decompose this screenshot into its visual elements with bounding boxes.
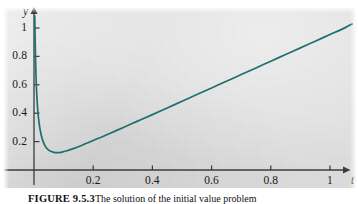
y-tick-label: 1 — [0, 22, 27, 34]
caption-label: FIGURE 9.5.3 — [28, 193, 95, 204]
figure-caption: FIGURE 9.5.3The solution of the initial … — [28, 193, 358, 204]
y-tick-label: 0.4 — [0, 107, 27, 119]
y-tick-label: 0.8 — [0, 50, 27, 62]
x-tick-label: 1 — [316, 175, 344, 187]
tick-marks-group — [34, 28, 330, 170]
y-tick-label: 0.2 — [0, 136, 27, 148]
caption-text: The solution of the initial value proble… — [95, 193, 257, 204]
x-tick-label: 0.6 — [198, 175, 226, 187]
x-axis-label: t — [351, 175, 354, 187]
x-tick-label: 0.2 — [79, 175, 107, 187]
y-tick-label: 0.6 — [0, 79, 27, 91]
axes-group — [3, 7, 351, 186]
solution-curve — [35, 16, 352, 153]
y-axis-label: y — [23, 6, 28, 18]
x-tick-label: 0.8 — [257, 175, 285, 187]
figure-container: 0.20.40.60.810.20.40.60.81 y t FIGURE 9.… — [0, 0, 358, 204]
plot-canvas — [0, 0, 358, 204]
x-tick-label: 0.4 — [138, 175, 166, 187]
